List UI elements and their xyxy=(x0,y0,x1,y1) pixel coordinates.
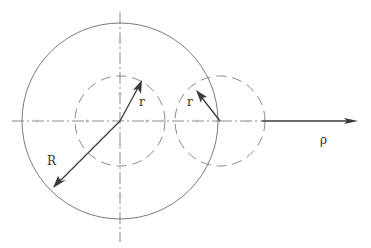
r-arrowhead-right-icon xyxy=(196,90,207,103)
label-R: R xyxy=(47,154,57,168)
R-arrow xyxy=(57,121,120,184)
label-rho: ρ xyxy=(320,133,327,147)
label-r-right: r xyxy=(187,95,193,109)
label-r-center: r xyxy=(139,95,145,109)
r-arrow-center xyxy=(120,84,140,121)
diagram-canvas: R r r ρ xyxy=(0,0,371,248)
r-arrowhead-center-icon xyxy=(133,80,142,94)
